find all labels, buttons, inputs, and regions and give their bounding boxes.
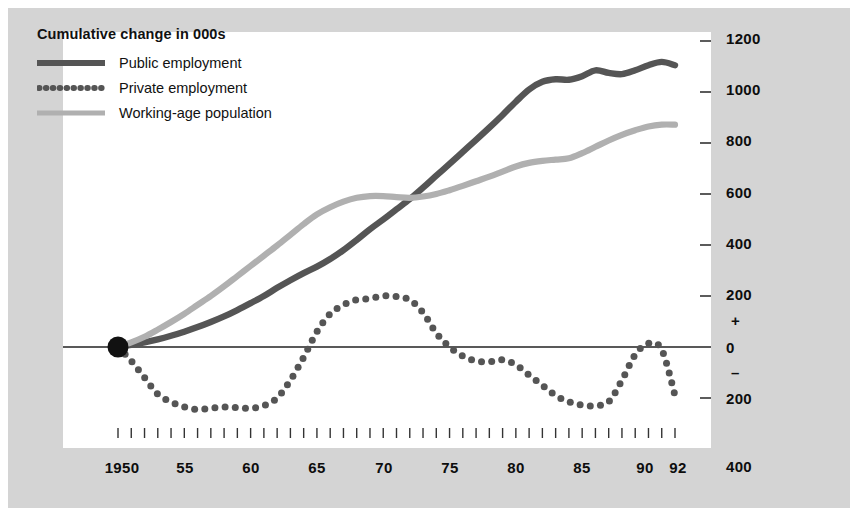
x-tick-label-70: 70 [375,459,392,476]
y-sign-positive: + [731,312,740,329]
line-solid-dark-icon [37,56,105,70]
origin-marker [108,337,129,358]
y-tick-label-1000: 1000 [726,81,761,98]
x-tick-label-85: 85 [573,459,590,476]
legend-label-working-age-population: Working-age population [119,105,272,121]
figure-root: Cumulative change in 000s Public employm… [0,0,856,514]
x-tick-label-60: 60 [242,459,259,476]
y-tick-label-800: 800 [726,132,752,149]
x-tick-label-55: 55 [176,459,193,476]
y-tick-label-0: 0 [726,339,735,356]
y-tick-label-200: 200 [726,286,752,303]
chart-legend: Cumulative change in 000s Public employm… [37,26,337,126]
x-tick-label-1950: 1950 [105,459,140,476]
x-tick-label-92: 92 [669,459,686,476]
legend-title: Cumulative change in 000s [37,26,337,42]
line-solid-light-icon [37,106,105,120]
y-tick-label-600: 600 [726,184,752,201]
x-axis-ticks [118,428,675,438]
series-private-employment [115,292,678,412]
legend-item-working-age-population: Working-age population [37,101,337,125]
x-tick-label-65: 65 [308,459,325,476]
y-tick-label-neg200: 200 [726,390,752,407]
legend-label-public-employment: Public employment [119,55,242,71]
legend-label-private-employment: Private employment [119,80,247,96]
y-tick-label-neg400: 400 [726,458,752,475]
series-working-age-population [118,125,675,347]
x-tick-label-75: 75 [441,459,458,476]
y-sign-negative: – [731,364,739,381]
y-axis-ticks [700,41,711,398]
x-tick-label-90: 90 [636,459,653,476]
legend-item-private-employment: Private employment [37,76,337,100]
y-tick-label-400: 400 [726,235,752,252]
x-tick-label-80: 80 [507,459,524,476]
y-tick-label-1200: 1200 [726,30,761,47]
legend-item-public-employment: Public employment [37,51,337,75]
line-dotted-dark-icon [37,81,105,95]
